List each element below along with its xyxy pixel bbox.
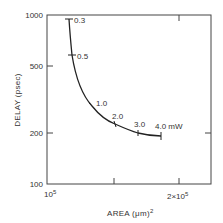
annotation-2.0: 2.0 xyxy=(112,112,124,121)
y-axis-label: DELAY (psec) xyxy=(13,73,22,127)
x-tick-label-2e5: 2×105 xyxy=(167,191,189,201)
annotation-1.0: 1.0 xyxy=(96,99,108,108)
annotation-0.5: 0.5 xyxy=(77,52,89,61)
x-tick-label-1e5: 105 xyxy=(44,189,57,199)
y-tick-label-500: 500 xyxy=(30,62,44,71)
annotation-4.0: 4.0 mW xyxy=(155,122,183,131)
x-axis-label: AREA (μm)2 xyxy=(107,208,154,218)
annotation-0.3: 0.3 xyxy=(74,16,86,25)
delay-area-chart: 1000 500 200 100 105 2×105 AREA (μm)2 DE… xyxy=(0,0,223,223)
y-tick-label-200: 200 xyxy=(30,129,44,138)
y-tick-label-100: 100 xyxy=(30,180,44,189)
y-tick-label-1000: 1000 xyxy=(25,11,43,20)
marker-1.0 xyxy=(89,103,95,109)
plot-frame xyxy=(47,15,211,184)
annotation-3.0: 3.0 xyxy=(134,120,146,129)
